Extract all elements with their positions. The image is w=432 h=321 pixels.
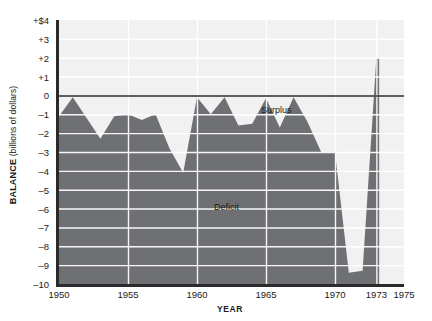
x-tick-label: 1960	[186, 289, 207, 300]
x-axis-title: YEAR	[56, 304, 404, 314]
y-axis-title-units: (billions of dollars)	[8, 86, 18, 159]
y-tick-label: –10	[33, 279, 49, 290]
x-tick-label: 1955	[117, 289, 138, 300]
y-tick-label: +1	[38, 71, 49, 82]
balance-chart-figure: BALANCE (billions of dollars) +$4+3+2+10…	[0, 0, 432, 321]
y-tick-label: +2	[38, 52, 49, 63]
area-chart-svg	[59, 20, 404, 284]
y-tick-label: –2	[38, 128, 49, 139]
x-tick-label: 1973	[366, 289, 387, 300]
y-tick-label: 0	[44, 90, 49, 101]
y-tick-label: –1	[38, 109, 49, 120]
surplus-label: Surplus	[261, 105, 292, 115]
y-tick-label: –6	[38, 203, 49, 214]
plot-area: Surplus Deficit	[56, 20, 404, 287]
x-tick-label: 1970	[324, 289, 345, 300]
y-axis-title-bold: BALANCE	[8, 159, 18, 204]
deficit-label: Deficit	[214, 202, 239, 212]
x-tick-label: 1975	[393, 289, 414, 300]
y-tick-label: –9	[38, 260, 49, 271]
y-tick-label: +3	[38, 33, 49, 44]
x-tick-label: 1950	[48, 289, 69, 300]
y-tick-label: –4	[38, 165, 49, 176]
y-axis-tick-labels: +$4+3+2+10–1–2–3–4–5–6–7–8–9–10	[18, 0, 52, 321]
y-tick-label: –7	[38, 222, 49, 233]
y-tick-label: –3	[38, 147, 49, 158]
y-tick-label: –8	[38, 241, 49, 252]
y-tick-label: –5	[38, 184, 49, 195]
y-tick-label: +$4	[33, 15, 49, 26]
x-axis-tick-labels: 1950195519601965197019731975	[0, 289, 432, 305]
x-tick-label: 1965	[255, 289, 276, 300]
